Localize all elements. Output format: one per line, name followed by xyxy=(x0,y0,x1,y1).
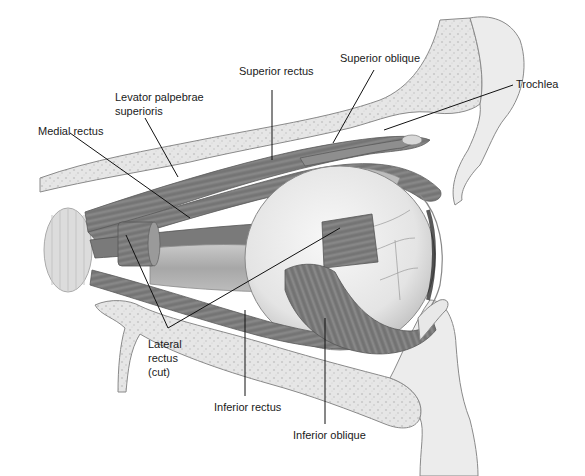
tendinous-ring xyxy=(44,208,92,292)
label-medial-rectus: Medial rectus xyxy=(38,124,103,138)
label-superior-oblique: Superior oblique xyxy=(340,51,420,65)
label-inferior-oblique: Inferior oblique xyxy=(293,428,366,442)
label-levator-palpebrae-superioris: Levator palpebrae superioris xyxy=(115,90,204,118)
label-inferior-rectus: Inferior rectus xyxy=(214,400,281,414)
label-lateral-rectus-cut: Lateral rectus (cut) xyxy=(148,337,182,379)
label-superior-rectus: Superior rectus xyxy=(239,64,314,78)
label-trochlea: Trochlea xyxy=(516,77,558,91)
